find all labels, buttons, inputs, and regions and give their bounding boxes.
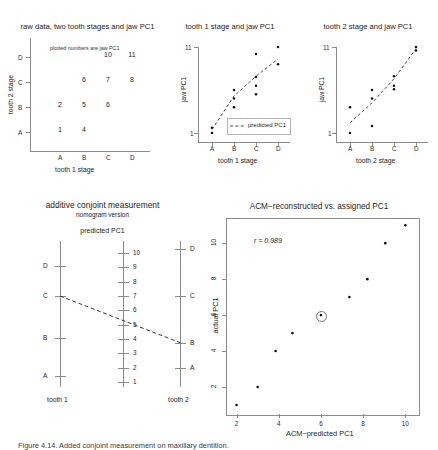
acm-xtick-8: 8 (358, 420, 368, 427)
acm-ytick-mark-6 (222, 315, 226, 316)
acm-xtick-mark-4 (279, 414, 280, 418)
raw-ytick-mark-B (26, 107, 31, 108)
data-point (256, 386, 259, 389)
data-point (233, 89, 236, 92)
acm-ytick-mark-2 (222, 387, 226, 388)
data-point (366, 278, 369, 281)
raw-ytick-A: A (18, 129, 22, 136)
acm-xtick-mark-8 (363, 414, 364, 418)
panel-nomogram: additive conjoint measurement nomogram v… (0, 186, 205, 436)
acm-xtick-6: 6 (316, 420, 326, 427)
raw-xlabel: tooth 1 stage (55, 166, 94, 173)
raw-xtick-C: C (106, 154, 111, 161)
acm-xtick-mark-6 (321, 414, 322, 418)
panel-raw-title: raw data, two tooth stages and jaw PC1 (0, 22, 175, 31)
raw-ytick-B: B (18, 104, 22, 111)
acm-xtick-mark-2 (237, 414, 238, 418)
acm-xtick-mark-10 (405, 414, 406, 418)
data-point (348, 296, 351, 299)
panel-tooth1: tooth 1 stage and jaw PC1 11 1 A B C D t… (160, 0, 300, 180)
raw-ytick-mark-D (26, 57, 31, 58)
data-point (371, 89, 374, 92)
acm-ytick-8: 8 (210, 272, 217, 286)
data-point (291, 332, 294, 335)
acm-highlighted-point-circle (316, 311, 327, 322)
raw-cell-value: 2 (54, 101, 66, 108)
data-point (415, 46, 418, 49)
data-point (393, 75, 396, 78)
data-point (349, 132, 352, 135)
acm-ytick-2: 2 (210, 380, 217, 394)
data-point (349, 106, 352, 109)
panel-tooth2: tooth 2 stage and jaw PC1 11 1 A B C D t… (298, 0, 438, 180)
data-point (277, 63, 280, 66)
raw-xtick-A: A (58, 154, 62, 161)
data-point (255, 93, 258, 96)
raw-cell-value: 1 (54, 126, 66, 133)
raw-ytick-mark-A (26, 132, 31, 133)
raw-x-axis (30, 151, 150, 152)
acm-xtick-10: 10 (400, 420, 410, 427)
acm-xtick-2: 2 (232, 420, 242, 427)
data-point (274, 350, 277, 353)
raw-cell-value: 11 (124, 51, 140, 58)
acm-ytick-mark-10 (222, 243, 226, 244)
raw-ytick-D: D (18, 54, 23, 61)
raw-y-axis (30, 38, 31, 151)
acm-xlabel: ACM−predicted PC1 (286, 429, 354, 438)
data-point (211, 132, 214, 135)
data-point (233, 106, 236, 109)
data-point (255, 53, 258, 56)
raw-ytick-mark-C (26, 82, 31, 83)
acm-ytick-mark-4 (222, 351, 226, 352)
raw-cell-value: 7 (102, 76, 114, 83)
panel-raw-data: raw data, two tooth stages and jaw PC1 p… (0, 0, 175, 180)
data-point (255, 76, 258, 79)
raw-ytick-C: C (18, 79, 23, 86)
raw-cell-value: 10 (100, 51, 116, 58)
tooth2-plot-area (298, 0, 438, 180)
acm-ylabel: actual PC1 (211, 286, 220, 346)
tooth1-legend-label: predicted PC1 (248, 122, 286, 128)
panel-acm: ACM−reconstructed vs. assigned PC1 r = 0… (200, 186, 438, 436)
tooth1-plot-area (160, 0, 300, 180)
data-point (371, 97, 374, 100)
acm-xtick-4: 4 (274, 420, 284, 427)
raw-xtick-B: B (82, 154, 86, 161)
acm-ytick-mark-8 (222, 279, 226, 280)
raw-cell-value: 5 (78, 101, 90, 108)
raw-cell-value: 6 (102, 101, 114, 108)
nomogram-left-axis-label: tooth 1 (47, 396, 68, 403)
data-point (384, 242, 387, 245)
acm-ytick-10: 10 (210, 236, 217, 250)
raw-xtick-D: D (130, 154, 135, 161)
raw-cell-value: 6 (78, 76, 90, 83)
raw-ylabel: tooth 2 stage (7, 70, 14, 120)
nomogram-right-axis-label: tooth 2 (168, 396, 189, 403)
raw-cell-value: 4 (78, 126, 90, 133)
data-point (393, 88, 396, 91)
raw-cell-value: 8 (126, 76, 138, 83)
figure-caption: Figure 4.14. Added conjoint measurement … (18, 441, 229, 450)
data-point (255, 84, 258, 87)
data-point (404, 224, 407, 227)
tooth1-legend-line (230, 125, 246, 127)
data-point (277, 46, 280, 49)
data-point (393, 84, 396, 87)
acm-ytick-4: 4 (210, 344, 217, 358)
data-point (371, 125, 374, 128)
data-point (235, 404, 238, 407)
